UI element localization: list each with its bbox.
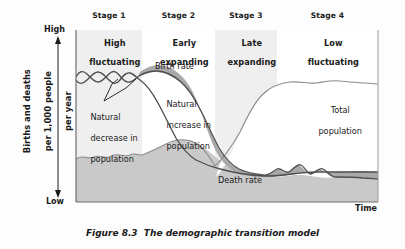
stage-1-name-line2: fluctuating [89, 57, 140, 67]
natural-increase-line2: increase in [166, 120, 211, 130]
birth-rate-label: Birth rate [155, 62, 194, 71]
natural-decrease-line2: decrease in [90, 133, 137, 143]
y-axis-high-label: High [44, 26, 65, 35]
stage-2-number: Stage 2 [142, 12, 215, 21]
natural-decrease-annotation: Natural decrease in population [80, 101, 138, 175]
stage-4-number: Stage 4 [277, 12, 378, 21]
figure-caption: Figure 8.3 The demographic transition mo… [0, 228, 405, 238]
natural-increase-line1: Natural [166, 99, 196, 109]
stage-3-name-line2: expanding [227, 57, 276, 67]
demographic-transition-figure: Stage 1 Stage 2 Stage 3 Stage 4 High flu… [0, 0, 405, 249]
y-axis-title-line2: per 1,000 people [43, 71, 53, 151]
death-rate-label: Death rate [218, 176, 262, 185]
stage-1-name-line1: High [104, 38, 126, 48]
y-axis-low-label: Low [46, 198, 64, 207]
natural-decrease-line3: population [90, 154, 134, 164]
natural-increase-line3: population [166, 141, 210, 151]
natural-increase-annotation: Natural increase in population [156, 88, 211, 162]
stage-3-name: Late expanding [215, 30, 277, 76]
stage-4-name: Low fluctuating [277, 30, 378, 76]
stage-3-number: Stage 3 [215, 12, 277, 21]
stage-3-name-line1: Late [242, 38, 262, 48]
x-axis-title: Time [355, 205, 377, 214]
y-axis-title: Births and deaths per 1,000 people per y… [12, 52, 84, 182]
stage-1-name: High fluctuating [76, 30, 142, 76]
stage-4-name-line2: fluctuating [308, 57, 359, 67]
y-axis-title-line3: per year [63, 91, 73, 131]
stage-4-name-line1: Low [324, 38, 343, 48]
total-population-line2: population [318, 126, 362, 136]
stage-1-number: Stage 1 [76, 12, 142, 21]
total-population-label: Total population [300, 94, 370, 147]
y-axis-title-line1: Births and deaths [22, 69, 32, 153]
natural-decrease-line1: Natural [90, 112, 120, 122]
total-population-line1: Total [331, 105, 350, 115]
stage-2-name-line1: Early [173, 38, 197, 48]
